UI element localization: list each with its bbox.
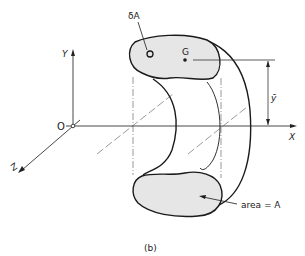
origin: O: [57, 121, 75, 132]
bottom-cross-section: [133, 172, 222, 216]
dimension-arrow-up-icon: [266, 61, 270, 67]
x-axis-arrow-icon: [290, 124, 297, 128]
z-axis: Z: [8, 120, 80, 173]
origin-marker-icon: [71, 124, 75, 128]
element-area-label: δA: [128, 11, 141, 21]
centroid-height-dimension: ȳ: [266, 61, 277, 125]
projection-lines: [133, 77, 221, 178]
area-label: area = A: [241, 200, 281, 210]
centroid-label: G: [182, 47, 189, 57]
torus-section-diagram: Y X Z O: [0, 0, 305, 256]
x-axis: X: [73, 124, 297, 142]
y-axis-arrow-icon: [71, 49, 75, 56]
figure-caption: (b): [144, 243, 157, 253]
z-axis-label: Z: [8, 161, 20, 174]
top-cross-section: [130, 35, 220, 79]
x-axis-label: X: [288, 132, 296, 142]
y-axis-label: Y: [62, 49, 69, 59]
dimension-arrow-down-icon: [266, 119, 270, 125]
y-axis: Y: [62, 49, 75, 128]
centroid-dot-icon: [183, 58, 187, 62]
centroid-height-label: ȳ: [270, 93, 277, 103]
origin-label: O: [57, 121, 65, 132]
